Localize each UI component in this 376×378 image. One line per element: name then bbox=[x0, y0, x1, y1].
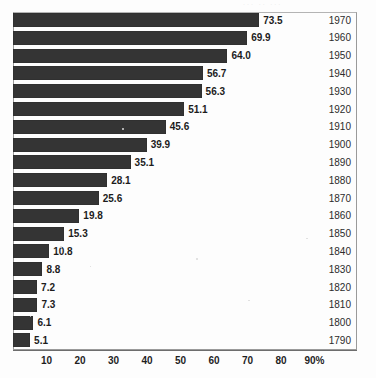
x-axis-tick: 40 bbox=[141, 354, 152, 368]
bar bbox=[13, 102, 184, 116]
bar-value-label: 7.2 bbox=[41, 282, 55, 294]
bar-value-label: 19.8 bbox=[83, 210, 102, 222]
bar-value-label: 8.8 bbox=[46, 264, 60, 276]
x-axis-line bbox=[13, 350, 357, 351]
bar-category-label: 1930 bbox=[329, 86, 351, 98]
bar-value-label: 5.1 bbox=[34, 335, 48, 347]
bar bbox=[13, 13, 259, 27]
bar-value-label: 35.1 bbox=[135, 157, 154, 169]
bar-category-label: 1810 bbox=[329, 299, 351, 311]
bar-value-label: 39.9 bbox=[151, 139, 170, 151]
bar-row: 39.91900 bbox=[13, 137, 357, 155]
bar-category-label: 1950 bbox=[329, 50, 351, 62]
x-axis-tick: 90% bbox=[304, 354, 324, 368]
bar-value-label: 51.1 bbox=[188, 104, 207, 116]
bar bbox=[13, 316, 33, 330]
bar-row: 15.31850 bbox=[13, 226, 357, 244]
bar-value-label: 45.6 bbox=[170, 121, 189, 133]
bar-value-label: 28.1 bbox=[111, 175, 130, 187]
bar-row: 19.81860 bbox=[13, 208, 357, 226]
bar-row: 10.81840 bbox=[13, 243, 357, 261]
bar-category-label: 1800 bbox=[329, 317, 351, 329]
bar-row: 6.11800 bbox=[13, 315, 357, 333]
bar-category-label: 1870 bbox=[329, 193, 351, 205]
bar-value-label: 10.8 bbox=[53, 246, 72, 258]
x-axis-tick: 10 bbox=[41, 354, 52, 368]
bar-category-label: 1920 bbox=[329, 104, 351, 116]
bar-row: 69.91960 bbox=[13, 30, 357, 48]
bar bbox=[13, 120, 166, 134]
x-axis-tick: 50 bbox=[175, 354, 186, 368]
bar-category-label: 1820 bbox=[329, 282, 351, 294]
bar bbox=[13, 84, 202, 98]
bar-category-label: 1790 bbox=[329, 335, 351, 347]
bar bbox=[13, 138, 147, 152]
bar-category-label: 1910 bbox=[329, 121, 351, 133]
bars-layer: 73.5197069.9196064.0195056.7194056.31930… bbox=[13, 12, 357, 350]
bar-category-label: 1840 bbox=[329, 246, 351, 258]
bar-value-label: 25.6 bbox=[103, 193, 122, 205]
bar-value-label: 7.3 bbox=[41, 299, 55, 311]
cropped-header-remnant: ··· ·· ··· bbox=[243, 1, 295, 7]
bar-value-label: 6.1 bbox=[37, 317, 51, 329]
bar-category-label: 1900 bbox=[329, 139, 351, 151]
bar-value-label: 64.0 bbox=[231, 50, 250, 62]
bar-value-label: 56.3 bbox=[206, 86, 225, 98]
bar-category-label: 1860 bbox=[329, 210, 351, 222]
bar-row: 51.11920 bbox=[13, 101, 357, 119]
bar-category-label: 1850 bbox=[329, 228, 351, 240]
bar bbox=[13, 66, 203, 80]
x-axis-tick: 30 bbox=[108, 354, 119, 368]
bar-value-label: 69.9 bbox=[251, 32, 270, 44]
bar-value-label: 15.3 bbox=[68, 228, 87, 240]
bar-category-label: 1970 bbox=[329, 15, 351, 27]
bar-category-label: 1880 bbox=[329, 175, 351, 187]
bar bbox=[13, 173, 107, 187]
bar-category-label: 1960 bbox=[329, 32, 351, 44]
bar-row: 64.01950 bbox=[13, 48, 357, 66]
bar-row: 28.11880 bbox=[13, 172, 357, 190]
bar bbox=[13, 31, 247, 45]
x-axis-tick: 60 bbox=[208, 354, 219, 368]
bar bbox=[13, 244, 49, 258]
bar-value-label: 73.5 bbox=[263, 15, 282, 27]
bar-row: 25.61870 bbox=[13, 190, 357, 208]
bar bbox=[13, 262, 42, 276]
x-axis-tick-labels: 102030405060708090% bbox=[13, 354, 357, 370]
bar-row: 56.71940 bbox=[13, 65, 357, 83]
bar bbox=[13, 333, 30, 347]
bar-row: 73.51970 bbox=[13, 12, 357, 30]
bar bbox=[13, 49, 227, 63]
chart-page: ··· ·· ··· 73.5197069.9196064.0195056.71… bbox=[0, 0, 376, 378]
bar-category-label: 1890 bbox=[329, 157, 351, 169]
bar bbox=[13, 280, 37, 294]
bar-row: 7.31810 bbox=[13, 297, 357, 315]
bar-category-label: 1830 bbox=[329, 264, 351, 276]
bar bbox=[13, 155, 131, 169]
bar-row: 35.11890 bbox=[13, 154, 357, 172]
bar bbox=[13, 209, 79, 223]
bar-row: 5.11790 bbox=[13, 332, 357, 350]
bar-row: 56.31930 bbox=[13, 83, 357, 101]
x-axis-tick: 70 bbox=[242, 354, 253, 368]
bar bbox=[13, 191, 99, 205]
bar bbox=[13, 298, 37, 312]
bar-row: 8.81830 bbox=[13, 261, 357, 279]
x-axis-tick: 20 bbox=[74, 354, 85, 368]
x-axis-tick: 80 bbox=[275, 354, 286, 368]
bar-category-label: 1940 bbox=[329, 68, 351, 80]
bar bbox=[13, 227, 64, 241]
bar-row: 45.61910 bbox=[13, 119, 357, 137]
bar-value-label: 56.7 bbox=[207, 68, 226, 80]
bar-row: 7.21820 bbox=[13, 279, 357, 297]
